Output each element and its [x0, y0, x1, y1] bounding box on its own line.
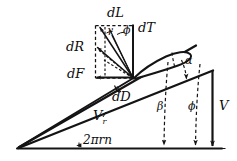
relative-velocity-symbol: V — [93, 108, 102, 123]
blade-element-diagram: dL dT dR dF dD ϕ γ α β ϕ V Vr 2πrn — [0, 0, 237, 161]
tangential-force-label: dF — [67, 67, 84, 80]
phi-top-label: ϕ — [123, 25, 131, 36]
drag-label: dD — [112, 90, 131, 103]
relative-velocity-line — [19, 71, 214, 149]
beta-angle-arc — [164, 62, 168, 145]
lift-label: dL — [107, 6, 124, 19]
airfoil-section — [134, 52, 192, 79]
relative-velocity-subscript: r — [102, 117, 106, 126]
thrust-label: dT — [138, 21, 155, 34]
rotational-velocity-axis — [17, 143, 226, 149]
rotational-velocity-label: 2πrn — [83, 134, 112, 146]
axial-velocity-label: V — [219, 99, 228, 112]
diagram-canvas — [0, 0, 237, 161]
pitch-angle-label: ϕ — [188, 101, 196, 112]
relative-velocity-label: Vr — [93, 109, 106, 126]
angle-of-attack-label: α — [185, 55, 192, 66]
gamma-top-label: γ — [107, 25, 113, 35]
helix-angle-label: β — [157, 101, 163, 112]
resultant-force-label: dR — [66, 40, 84, 53]
